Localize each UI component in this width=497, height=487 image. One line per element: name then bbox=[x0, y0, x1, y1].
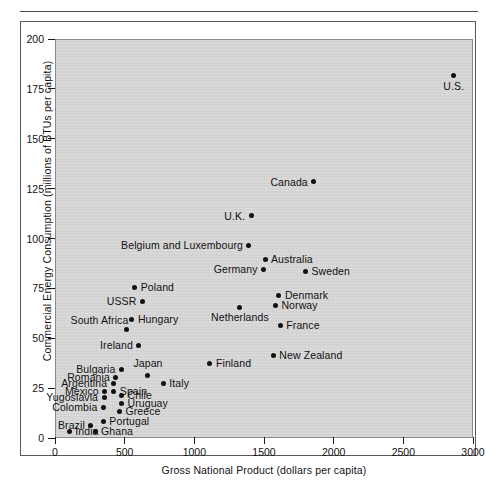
scatter-point bbox=[161, 381, 166, 386]
scatter-point-label: Australia bbox=[271, 254, 313, 265]
scatter-point-label: France bbox=[286, 320, 319, 331]
scatter-point bbox=[111, 381, 116, 386]
y-axis-tick-label: 150 bbox=[10, 133, 44, 145]
x-axis-tick bbox=[264, 437, 265, 444]
scatter-point bbox=[67, 429, 72, 434]
scatter-point bbox=[129, 317, 134, 322]
scatter-point-label: Colombia bbox=[52, 402, 97, 413]
x-axis-tick bbox=[194, 437, 195, 444]
scatter-point-label: Poland bbox=[141, 282, 174, 293]
y-axis-tick-label: 75 bbox=[10, 282, 44, 294]
scatter-point bbox=[119, 367, 124, 372]
scatter-point bbox=[101, 419, 106, 424]
figure-container: U.S.CanadaU.K.Belgium and LuxembourgAust… bbox=[0, 0, 497, 487]
y-axis-tick-label: 100 bbox=[10, 233, 44, 245]
scatter-point bbox=[271, 353, 276, 358]
scatter-point bbox=[451, 73, 456, 78]
scatter-point bbox=[263, 257, 268, 262]
scatter-point bbox=[276, 293, 281, 298]
x-axis-tick-label: 1500 bbox=[241, 446, 287, 458]
scatter-point bbox=[124, 327, 129, 332]
x-axis-tick bbox=[403, 437, 404, 444]
scatter-point bbox=[93, 429, 98, 434]
scatter-point bbox=[102, 389, 107, 394]
scatter-point bbox=[261, 267, 266, 272]
scatter-point bbox=[119, 401, 124, 406]
y-axis-tick-label: 200 bbox=[10, 33, 44, 45]
x-axis-tick-label: 1000 bbox=[171, 446, 217, 458]
scatter-point-label: Belgium and Luxembourg bbox=[121, 240, 243, 251]
scatter-point-label: Finland bbox=[216, 358, 251, 369]
scatter-point-label: Hungary bbox=[138, 314, 178, 325]
scatter-point bbox=[102, 395, 107, 400]
x-axis-tick bbox=[333, 437, 334, 444]
x-axis-tick-label: 500 bbox=[102, 446, 148, 458]
x-axis-tick bbox=[473, 437, 474, 444]
scatter-point bbox=[311, 179, 316, 184]
scatter-point bbox=[273, 303, 278, 308]
y-axis-tick-label: 50 bbox=[10, 332, 44, 344]
scatter-point bbox=[278, 323, 283, 328]
x-axis-tick-label: 3000 bbox=[450, 446, 496, 458]
scatter-point-label: Japan bbox=[133, 358, 162, 369]
scatter-point-label: Ireland bbox=[100, 340, 133, 351]
scatter-point-label: Germany bbox=[214, 264, 258, 275]
x-axis-tick bbox=[55, 437, 56, 444]
scatter-point bbox=[207, 361, 212, 366]
scatter-point-label: U.K. bbox=[224, 210, 245, 221]
scatter-point-label: Sweden bbox=[311, 266, 350, 277]
scatter-point-label: U.S. bbox=[443, 81, 464, 92]
scatter-point bbox=[145, 373, 150, 378]
y-axis-title: Commercial Energy Consumption (millions … bbox=[41, 16, 53, 406]
plot-background-texture bbox=[56, 40, 472, 437]
scatter-point bbox=[246, 243, 251, 248]
plot-area: U.S.CanadaU.K.Belgium and LuxembourgAust… bbox=[55, 39, 473, 438]
scatter-point bbox=[237, 305, 242, 310]
x-axis-tick bbox=[124, 437, 125, 444]
scatter-point bbox=[249, 213, 254, 218]
scatter-point-label: Canada bbox=[270, 176, 307, 187]
x-axis-tick-label: 2000 bbox=[311, 446, 357, 458]
x-axis-tick-label: 0 bbox=[32, 446, 78, 458]
scatter-point bbox=[111, 389, 116, 394]
scatter-point-label: Ghana bbox=[101, 426, 133, 437]
scatter-point-label: New Zealand bbox=[279, 350, 342, 361]
scatter-point bbox=[132, 285, 137, 290]
scatter-point bbox=[113, 375, 118, 380]
scatter-point bbox=[303, 269, 308, 274]
y-axis-tick-label: 0 bbox=[10, 432, 44, 444]
y-axis-tick-label: 125 bbox=[10, 183, 44, 195]
x-axis-tick-label: 2500 bbox=[380, 446, 426, 458]
scatter-point-label: South Africa bbox=[71, 315, 129, 326]
y-axis-tick-label: 175 bbox=[10, 83, 44, 95]
scatter-point bbox=[101, 405, 106, 410]
scatter-point-label: USSR bbox=[107, 296, 137, 307]
x-axis-title: Gross National Product (dollars per capi… bbox=[55, 464, 473, 476]
scatter-point bbox=[136, 343, 141, 348]
scatter-point-label: Italy bbox=[169, 378, 189, 389]
y-axis-tick-label: 25 bbox=[10, 382, 44, 394]
top-divider-rule bbox=[20, 11, 478, 12]
scatter-point-label: Netherlands bbox=[211, 312, 269, 323]
scatter-point-label: Norway bbox=[281, 300, 317, 311]
scatter-point bbox=[140, 299, 145, 304]
scatter-point bbox=[117, 409, 122, 414]
scatter-point bbox=[119, 393, 124, 398]
